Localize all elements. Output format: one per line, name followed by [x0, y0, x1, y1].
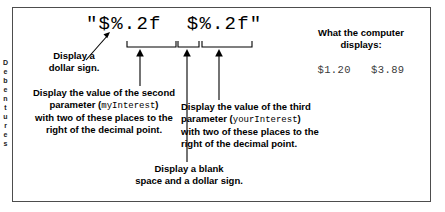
caption-third-parameter: Display the value of the third parameter… [181, 101, 351, 149]
caption-second-parameter: Display the value of the second paramete… [8, 87, 200, 135]
computer-output-panel: What the computer displays: $1.20 $3.89 [299, 27, 423, 76]
computer-output-values: $1.20 $3.89 [299, 64, 423, 76]
caption-blank-space: Display a blank space and a dollar sign. [111, 163, 267, 186]
caption-dollar-sign: Display a dollar sign. [26, 50, 122, 73]
computer-output-title: What the computer displays: [299, 27, 423, 50]
caption-third-parameter-identifier: yourInterest [233, 115, 298, 125]
format-string-code: "$%.2f $%.2f" [86, 13, 262, 35]
caption-second-parameter-identifier: myInterest [101, 101, 155, 111]
